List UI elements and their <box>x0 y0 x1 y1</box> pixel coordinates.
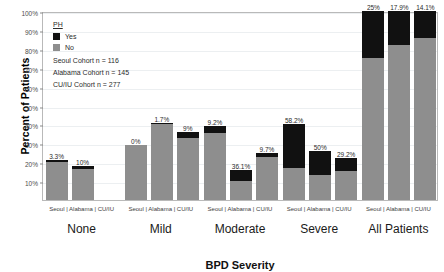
bar[interactable] <box>125 145 147 200</box>
x-category-all-patients: Seoul | Alabama | CU/IUAll Patients <box>366 201 431 236</box>
x-category-label: Mild <box>128 222 193 236</box>
bar-segment-no <box>335 171 357 200</box>
bar[interactable] <box>335 158 357 200</box>
y-tick-label: 10% <box>25 180 38 187</box>
bar-value-label: 9.2% <box>192 119 238 126</box>
bar[interactable] <box>362 11 384 200</box>
x-category-mild: Seoul | Alabama | CU/IUMild <box>128 201 193 236</box>
y-tick-label: 80% <box>25 47 38 54</box>
bar-segment-yes <box>414 11 436 38</box>
chart-root: Percent of Patients 10%20%30%40%50%60%70… <box>0 0 444 272</box>
bar-segment-yes <box>177 132 199 138</box>
bars-layer: 3.3%10%0%1.7%9%9.2%36.1%9.7%58.2%50%29.2… <box>43 13 437 200</box>
bar-segment-yes <box>72 166 94 169</box>
plot-area: 10%20%30%40%50%60%70%80%90%100% PH Yes N… <box>42 12 438 201</box>
bar-segment-no <box>72 169 94 200</box>
bar[interactable] <box>414 11 436 200</box>
bar-segment-yes <box>151 123 173 124</box>
bar-value-label: 14.1% <box>402 4 444 11</box>
x-category-severe: Seoul | Alabama | CU/IUSevere <box>287 201 352 236</box>
bar-segment-no <box>230 181 252 200</box>
bar[interactable] <box>46 160 68 200</box>
bar-segment-no <box>388 45 410 200</box>
bar[interactable] <box>151 123 173 200</box>
y-tick-label: 50% <box>25 104 38 111</box>
x-category-cohorts: Seoul | Alabama | CU/IU <box>208 206 273 212</box>
y-tick-label: 60% <box>25 85 38 92</box>
bar-segment-no <box>177 138 199 200</box>
x-category-cohorts: Seoul | Alabama | CU/IU <box>366 206 431 212</box>
x-category-label: Severe <box>287 222 352 236</box>
bar[interactable] <box>177 132 199 200</box>
bar-segment-no <box>151 124 173 200</box>
bar[interactable] <box>388 11 410 200</box>
x-category-cohorts: Seoul | Alabama | CU/IU <box>49 206 114 212</box>
bar[interactable] <box>283 124 305 200</box>
y-tick-label: 90% <box>25 28 38 35</box>
bar-segment-yes <box>362 11 384 58</box>
bar-segment-no <box>309 175 331 200</box>
bar[interactable] <box>230 170 252 200</box>
x-category-none: Seoul | Alabama | CU/IUNone <box>49 201 114 236</box>
bar-value-label: 10% <box>60 159 106 166</box>
x-category-label: All Patients <box>366 222 431 236</box>
bar[interactable] <box>72 166 94 200</box>
y-tick-label: 100% <box>21 10 38 17</box>
x-category-label: Moderate <box>208 222 273 236</box>
bar-segment-yes <box>230 170 252 181</box>
bar-segment-yes <box>256 153 278 158</box>
bar-segment-no <box>46 162 68 200</box>
bar-value-label: 58.2% <box>271 117 317 124</box>
bar-segment-no <box>125 145 147 200</box>
bar-value-label: 50% <box>297 144 343 151</box>
x-category-cohorts: Seoul | Alabama | CU/IU <box>287 206 352 212</box>
bar-value-label: 1.7% <box>139 116 185 123</box>
bar[interactable] <box>256 153 278 200</box>
x-category-label: None <box>49 222 114 236</box>
y-tick-label: 20% <box>25 161 38 168</box>
x-category-moderate: Seoul | Alabama | CU/IUModerate <box>208 201 273 236</box>
y-tick-label: 30% <box>25 142 38 149</box>
bar-segment-no <box>283 168 305 200</box>
bar-segment-no <box>362 58 384 200</box>
y-tick-label: 70% <box>25 66 38 73</box>
y-tick-label: 40% <box>25 123 38 130</box>
bar-segment-no <box>256 157 278 200</box>
bar-segment-yes <box>335 158 357 170</box>
x-axis-title: BPD Severity <box>42 259 438 271</box>
bar-segment-yes <box>204 126 226 133</box>
x-category-cohorts: Seoul | Alabama | CU/IU <box>128 206 193 212</box>
bar-segment-yes <box>388 11 410 45</box>
bar-segment-no <box>414 38 436 200</box>
